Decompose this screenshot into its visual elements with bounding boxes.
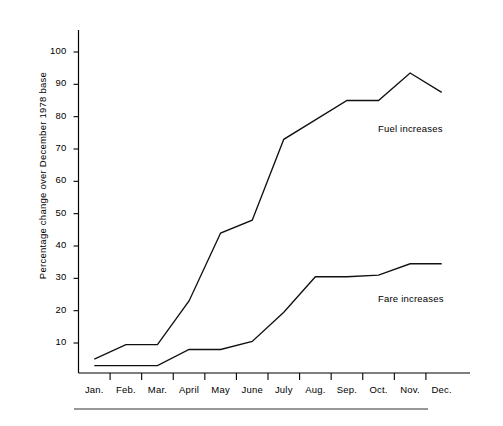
series-group (94, 73, 441, 366)
plot-canvas (0, 0, 503, 426)
y-tick-label: 80 (41, 110, 67, 121)
y-tick-label: 70 (41, 142, 67, 153)
y-tick-label: 30 (41, 271, 67, 282)
y-tick-label: 40 (41, 239, 67, 250)
y-tick-label: 60 (41, 174, 67, 185)
y-tick-label: 90 (41, 77, 67, 88)
series-label-fare: Fare increases (378, 293, 444, 304)
y-tick-label: 10 (41, 336, 67, 347)
y-tick-label: 50 (41, 207, 67, 218)
series-line-fare (94, 264, 441, 366)
x-tick-group (110, 373, 426, 380)
x-tick-label: Dec. (412, 384, 472, 395)
y-tick-group (74, 52, 79, 343)
line-chart-figure: Percentage change over December 1978 bas… (0, 0, 503, 426)
y-tick-label: 20 (41, 304, 67, 315)
series-line-fuel (94, 73, 441, 359)
series-label-fuel: Fuel increases (378, 123, 443, 134)
y-tick-label: 100 (41, 45, 67, 56)
